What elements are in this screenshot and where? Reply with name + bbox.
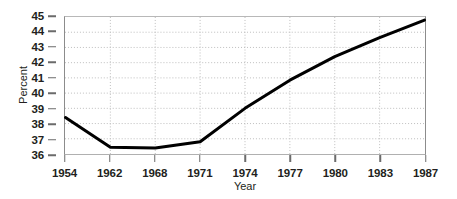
y-tick-label: 43	[31, 41, 44, 53]
y-tick-mark	[48, 92, 56, 94]
x-tick-mark	[154, 155, 156, 162]
y-tick-mark	[48, 108, 56, 110]
series-line	[65, 17, 425, 154]
x-tick-label: 1954	[52, 167, 77, 179]
x-tick-label: 1971	[187, 167, 212, 179]
y-axis: 36373839404142434445	[0, 16, 56, 155]
x-tick-mark	[244, 155, 246, 162]
x-axis-title: Year	[64, 180, 426, 192]
y-tick-label: 45	[31, 10, 44, 22]
y-tick-mark	[48, 15, 56, 17]
x-tick-label: 1962	[97, 167, 122, 179]
y-tick-mark	[48, 46, 56, 48]
x-tick-label: 1968	[142, 167, 167, 179]
x-tick-label: 1977	[278, 167, 303, 179]
y-tick-mark	[48, 77, 56, 79]
y-tick-label: 40	[31, 87, 44, 99]
x-tick-mark	[425, 155, 427, 162]
y-tick-label: 44	[31, 25, 44, 37]
x-tick-label: 1983	[368, 167, 393, 179]
plot-area	[64, 16, 426, 155]
x-tick-label: 1980	[323, 167, 348, 179]
line-chart-figure: Percent 36373839404142434445 19541962196…	[0, 0, 457, 199]
y-tick-label: 41	[31, 72, 44, 84]
x-tick-mark	[109, 155, 111, 162]
x-tick-mark	[64, 155, 66, 162]
x-tick-mark	[289, 155, 291, 162]
y-tick-mark	[48, 123, 56, 125]
x-tick-mark	[199, 155, 201, 162]
y-tick-mark	[48, 154, 56, 156]
y-tick-mark	[48, 31, 56, 33]
y-tick-mark	[48, 139, 56, 141]
x-tick-label: 1974	[232, 167, 257, 179]
x-tick-label: 1987	[413, 167, 438, 179]
x-tick-mark	[380, 155, 382, 162]
y-tick-label: 38	[31, 118, 44, 130]
y-tick-mark	[48, 62, 56, 64]
y-tick-label: 39	[31, 103, 44, 115]
y-tick-label: 37	[31, 134, 44, 146]
y-tick-label: 42	[31, 56, 44, 68]
y-tick-label: 36	[31, 149, 44, 161]
x-tick-mark	[335, 155, 337, 162]
